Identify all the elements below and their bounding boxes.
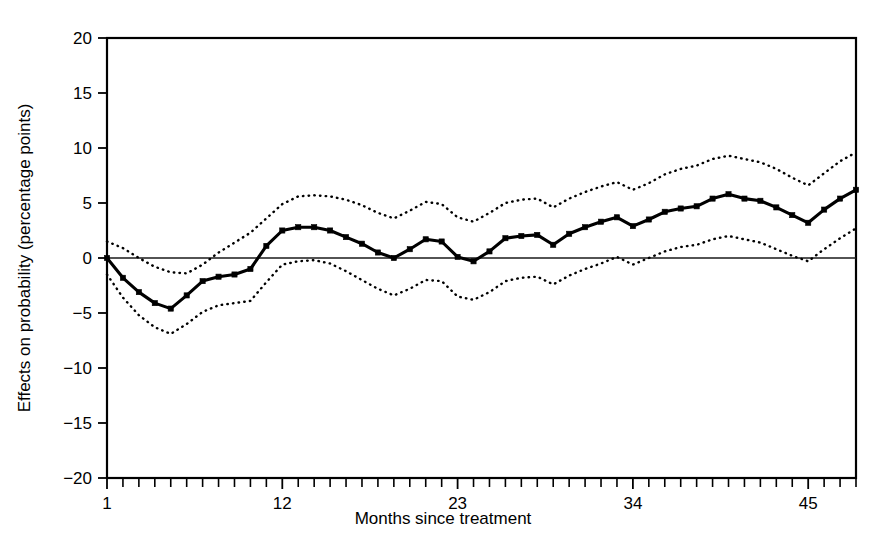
data-point-marker xyxy=(359,241,364,246)
data-point-marker xyxy=(726,192,731,197)
data-point-marker xyxy=(758,198,763,203)
x-tick-label: 12 xyxy=(273,494,292,513)
data-point-marker xyxy=(503,236,508,241)
y-tick-label: −20 xyxy=(63,469,92,488)
data-point-marker xyxy=(806,220,811,225)
data-point-marker xyxy=(184,293,189,298)
x-axis-title: Months since treatment xyxy=(355,509,532,528)
data-point-marker xyxy=(662,209,667,214)
y-tick-label: 20 xyxy=(73,29,92,48)
y-tick-label: 15 xyxy=(73,84,92,103)
x-tick-label: 1 xyxy=(102,494,111,513)
data-point-marker xyxy=(104,255,109,260)
data-point-marker xyxy=(710,196,715,201)
data-point-marker xyxy=(614,215,619,220)
data-point-marker xyxy=(853,187,858,192)
data-point-marker xyxy=(375,250,380,255)
chart-background xyxy=(0,0,887,550)
data-point-marker xyxy=(694,204,699,209)
data-point-marker xyxy=(407,247,412,252)
data-point-marker xyxy=(646,217,651,222)
data-point-marker xyxy=(439,239,444,244)
y-tick-label: 10 xyxy=(73,139,92,158)
data-point-marker xyxy=(120,275,125,280)
data-point-marker xyxy=(264,243,269,248)
data-point-marker xyxy=(248,266,253,271)
data-point-marker xyxy=(423,237,428,242)
data-point-marker xyxy=(774,205,779,210)
data-point-marker xyxy=(471,259,476,264)
data-point-marker xyxy=(598,219,603,224)
data-point-marker xyxy=(519,233,524,238)
data-point-marker xyxy=(312,225,317,230)
data-point-marker xyxy=(152,301,157,306)
data-point-marker xyxy=(328,228,333,233)
data-point-marker xyxy=(343,235,348,240)
data-point-marker xyxy=(455,254,460,259)
data-point-marker xyxy=(551,242,556,247)
y-tick-label: −5 xyxy=(73,304,92,323)
data-point-marker xyxy=(630,224,635,229)
data-point-marker xyxy=(567,231,572,236)
data-point-marker xyxy=(837,196,842,201)
data-point-marker xyxy=(200,279,205,284)
effects-on-probability-line-chart: 20151050−5−10−15−20 112233445 Months sin… xyxy=(0,0,887,550)
y-tick-label: 0 xyxy=(83,249,92,268)
data-point-marker xyxy=(822,207,827,212)
x-tick-label: 34 xyxy=(623,494,642,513)
data-point-marker xyxy=(136,290,141,295)
data-point-marker xyxy=(535,232,540,237)
data-point-marker xyxy=(582,225,587,230)
y-tick-label: −10 xyxy=(63,359,92,378)
data-point-marker xyxy=(487,249,492,254)
data-point-marker xyxy=(280,228,285,233)
y-axis-title: Effects on probability (percentage point… xyxy=(15,104,34,413)
x-tick-label: 45 xyxy=(799,494,818,513)
data-point-marker xyxy=(232,272,237,277)
y-tick-label: −15 xyxy=(63,414,92,433)
data-point-marker xyxy=(216,274,221,279)
data-point-marker xyxy=(168,306,173,311)
data-point-marker xyxy=(742,196,747,201)
data-point-marker xyxy=(790,213,795,218)
y-tick-label: 5 xyxy=(83,194,92,213)
chart-container: 20151050−5−10−15−20 112233445 Months sin… xyxy=(0,0,887,550)
data-point-marker xyxy=(296,225,301,230)
data-point-marker xyxy=(391,255,396,260)
data-point-marker xyxy=(678,206,683,211)
